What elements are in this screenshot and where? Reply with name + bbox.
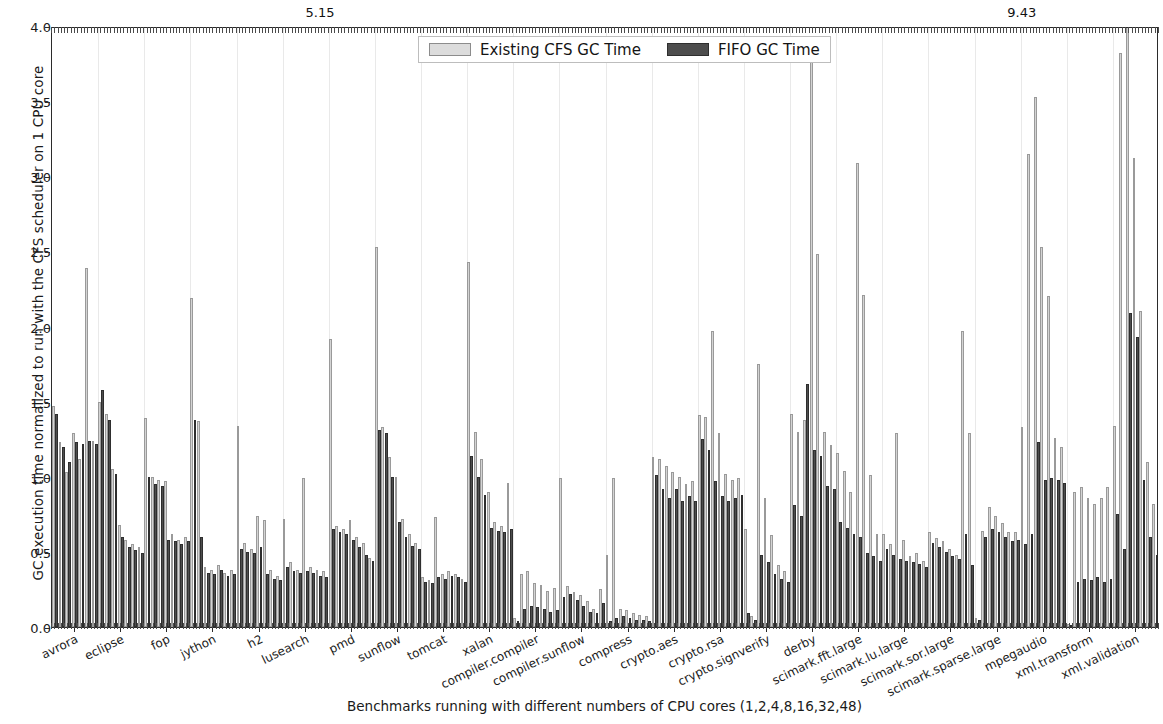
x-tick-mark <box>166 628 167 632</box>
x-tick-mark <box>628 628 629 632</box>
x-tick-label: sunflow <box>355 632 403 665</box>
x-tick-label: pmd <box>327 632 357 656</box>
x-tick-label: avrora <box>39 632 80 662</box>
x-tick-mark <box>535 628 536 632</box>
x-tick-mark <box>674 628 675 632</box>
x-tick-mark <box>1135 628 1136 632</box>
x-tick-mark <box>904 628 905 632</box>
x-tick-mark <box>443 628 444 632</box>
x-tick-mark <box>581 628 582 632</box>
x-axis-title: Benchmarks running with different number… <box>51 698 1158 714</box>
x-tick-mark <box>1043 628 1044 632</box>
x-tick-mark <box>212 628 213 632</box>
x-tick-mark <box>720 628 721 632</box>
x-tick-mark <box>489 628 490 632</box>
x-tick-mark <box>74 628 75 632</box>
x-axis-ticks: avroraeclipsefopjythonh2lusearchpmdsunfl… <box>0 0 1163 724</box>
x-tick-mark <box>305 628 306 632</box>
x-tick-mark <box>766 628 767 632</box>
x-tick-mark <box>812 628 813 632</box>
x-tick-label: eclipse <box>83 632 127 663</box>
chart-figure: GC execution time normalized to run with… <box>0 0 1163 724</box>
x-tick-label: tomcat <box>405 632 449 663</box>
x-tick-mark <box>950 628 951 632</box>
x-tick-mark <box>397 628 398 632</box>
x-tick-mark <box>120 628 121 632</box>
x-tick-mark <box>997 628 998 632</box>
x-tick-mark <box>351 628 352 632</box>
x-tick-mark <box>1089 628 1090 632</box>
x-tick-label: jython <box>179 632 219 661</box>
x-tick-label: h2 <box>245 632 265 651</box>
x-tick-mark <box>858 628 859 632</box>
x-tick-label: fop <box>149 632 172 653</box>
x-tick-mark <box>259 628 260 632</box>
x-tick-label: lusearch <box>259 632 311 667</box>
